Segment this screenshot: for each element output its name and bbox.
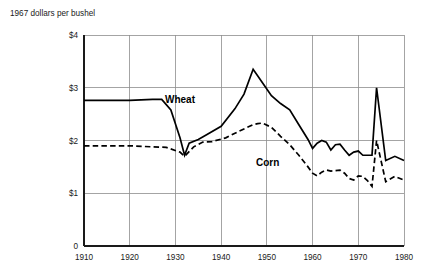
y-tick-label-1: $1	[69, 189, 79, 198]
series-label-corn: Corn	[256, 157, 279, 168]
x-tick-label-1960: 1960	[303, 253, 322, 262]
series-line-wheat	[84, 69, 404, 160]
x-tick-label-1980: 1980	[395, 253, 414, 262]
x-tick-label-1970: 1970	[349, 253, 368, 262]
x-tick-label-1930: 1930	[166, 253, 185, 262]
crop-price-line-chart: 1967 dollars per bushel $1$2$3$4 1910192…	[0, 0, 438, 279]
series-lines	[84, 69, 404, 186]
origin-label-group: 0	[73, 242, 78, 251]
y-axis-tick-labels: $1$2$3$4	[69, 31, 79, 198]
chart-title-group: 1967 dollars per bushel	[10, 9, 95, 18]
origin-label: 0	[73, 242, 78, 251]
x-tick-label-1940: 1940	[212, 253, 231, 262]
gridlines	[84, 35, 404, 246]
series-annotations: WheatCorn	[165, 94, 279, 168]
y-tick-label-2: $2	[69, 137, 79, 146]
series-line-corn	[84, 123, 404, 186]
chart-title: 1967 dollars per bushel	[10, 9, 95, 18]
y-tick-label-3: $3	[69, 84, 79, 93]
x-axis-tick-labels: 19101920193019401950196019701980	[75, 253, 414, 262]
x-tick-label-1920: 1920	[121, 253, 140, 262]
x-tick-label-1910: 1910	[75, 253, 94, 262]
y-tick-label-4: $4	[69, 31, 79, 40]
x-tick-label-1950: 1950	[258, 253, 277, 262]
series-label-wheat: Wheat	[165, 94, 196, 105]
